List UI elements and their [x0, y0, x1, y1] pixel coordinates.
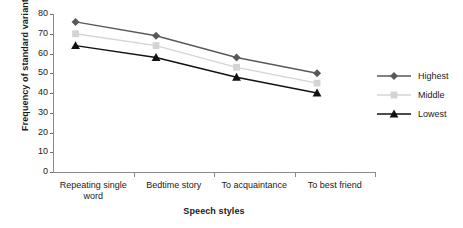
diamond-marker [72, 18, 80, 26]
series-middle [72, 30, 320, 86]
x-tick-label: Repeating singleword [53, 180, 134, 202]
x-tick-label: To acquaintance [214, 180, 295, 191]
series-line [76, 46, 318, 93]
square-marker [72, 30, 79, 37]
x-axis-title: Speech styles [53, 206, 375, 216]
x-tick-label: Bedtime story [134, 180, 215, 191]
legend-item-lowest[interactable]: Lowest [376, 104, 449, 123]
chart-figure: Frequency of standard variant 0102030405… [0, 0, 463, 228]
diamond-marker [233, 53, 241, 61]
series-line [76, 34, 318, 83]
series-lowest [71, 41, 321, 96]
legend-item-highest[interactable]: Highest [376, 66, 449, 85]
legend-swatch [376, 69, 412, 83]
legend-label: Middle [418, 90, 445, 100]
legend-swatch [376, 107, 412, 121]
diamond-marker [152, 32, 160, 40]
legend-swatch [376, 88, 412, 102]
legend-item-middle[interactable]: Middle [376, 85, 449, 104]
legend-label: Highest [418, 71, 449, 81]
square-marker [153, 42, 160, 49]
legend-label: Lowest [418, 109, 447, 119]
triangle-marker [71, 41, 80, 49]
series-line [76, 22, 318, 73]
square-marker [233, 64, 240, 71]
square-marker [314, 80, 321, 87]
x-tick-label: To best friend [295, 180, 376, 191]
diamond-marker [390, 72, 398, 80]
diamond-marker [313, 69, 321, 77]
series-highest [72, 18, 322, 77]
square-marker [391, 91, 398, 98]
legend: HighestMiddleLowest [376, 66, 449, 123]
